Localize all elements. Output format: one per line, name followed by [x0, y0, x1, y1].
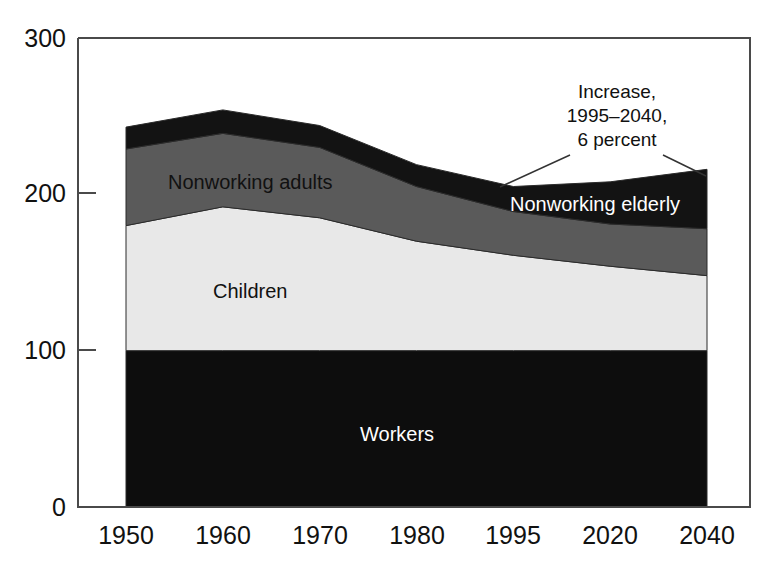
- x-axis-label-1970: 1970: [292, 521, 348, 549]
- x-axis-labels: 1950 1960 1970 1980 1995 2020 2040: [98, 521, 735, 549]
- label-workers: Workers: [360, 423, 434, 445]
- label-nonworking-adults: Nonworking adults: [168, 171, 333, 193]
- label-children: Children: [213, 280, 287, 302]
- x-axis-label-1960: 1960: [195, 521, 251, 549]
- stacked-area-chart: 300 200 100 0 1950 1960 1970 1980 1995 2…: [0, 0, 780, 577]
- annotation-line-1: Increase,: [578, 81, 656, 102]
- annotation-line-3: 6 percent: [577, 129, 657, 150]
- annotation-line-2: 1995–2040,: [567, 105, 667, 126]
- y-axis-label-300: 300: [24, 24, 66, 52]
- x-axis-label-1950: 1950: [98, 521, 154, 549]
- x-axis-label-2020: 2020: [582, 521, 638, 549]
- chart-figure: 300 200 100 0 1950 1960 1970 1980 1995 2…: [0, 0, 780, 577]
- x-axis-label-2040: 2040: [679, 521, 735, 549]
- x-axis-label-1995: 1995: [485, 521, 541, 549]
- y-axis-label-0: 0: [52, 493, 66, 521]
- x-axis-label-1980: 1980: [389, 521, 445, 549]
- y-axis-labels: 300 200 100 0: [24, 24, 66, 521]
- label-nonworking-elderly: Nonworking elderly: [510, 193, 680, 215]
- y-axis-label-200: 200: [24, 179, 66, 207]
- y-axis-label-100: 100: [24, 336, 66, 364]
